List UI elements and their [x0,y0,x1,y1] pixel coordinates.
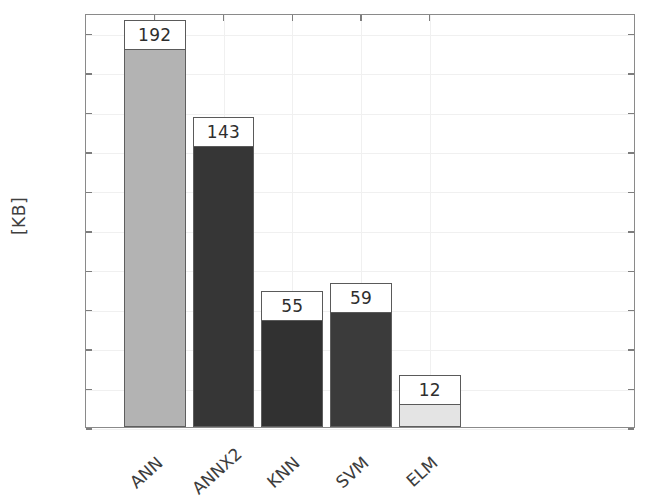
y-axis-label: [KB] [9,171,29,261]
x-axis-tick [292,15,293,21]
chart-figure: [KB] 192143555912 0204060801001201401601… [0,0,652,497]
x-axis-tick [223,15,224,21]
x-tick-label-ann: ANN [119,453,167,497]
gridline-vertical [430,15,431,427]
y-axis-tick [86,73,92,74]
plot-inner: 192143555912 [86,15,634,427]
x-tick-label-knn: KNN [256,453,304,497]
value-label-annx2: 143 [193,117,255,147]
y-axis-tick [86,428,92,429]
value-label-elm: 12 [399,375,461,405]
gridline-horizontal [86,429,634,430]
y-axis-tick [86,349,92,350]
y-axis-tick [628,231,634,232]
y-axis-tick [628,113,634,114]
y-axis-tick [628,73,634,74]
y-axis-tick [86,192,92,193]
y-axis-tick [86,231,92,232]
plot-area: 192143555912 [85,14,635,428]
bar-annx2 [193,145,255,427]
y-axis-tick [628,389,634,390]
y-axis-tick [86,310,92,311]
x-tick-label-svm: SVM [325,453,373,497]
bar-elm [399,403,461,427]
y-axis-tick [86,271,92,272]
bar-knn [261,319,323,427]
y-axis-tick [86,152,92,153]
y-axis-tick [86,389,92,390]
bar-ann [124,49,186,428]
x-axis-tick [429,15,430,21]
value-label-svm: 59 [330,283,392,313]
y-axis-tick [86,113,92,114]
y-axis-tick [628,152,634,153]
y-axis-tick [628,271,634,272]
y-axis-tick [86,34,92,35]
value-label-ann: 192 [124,20,186,50]
y-axis-tick [628,310,634,311]
x-tick-label-annx2: ANNX2 [188,453,236,497]
y-axis-tick [628,428,634,429]
value-label-knn: 55 [261,291,323,321]
x-tick-label-elm: ELM [394,453,442,497]
y-axis-tick [628,349,634,350]
bar-svm [330,311,392,427]
x-axis-tick [360,15,361,21]
y-axis-tick [628,192,634,193]
y-axis-tick [628,34,634,35]
